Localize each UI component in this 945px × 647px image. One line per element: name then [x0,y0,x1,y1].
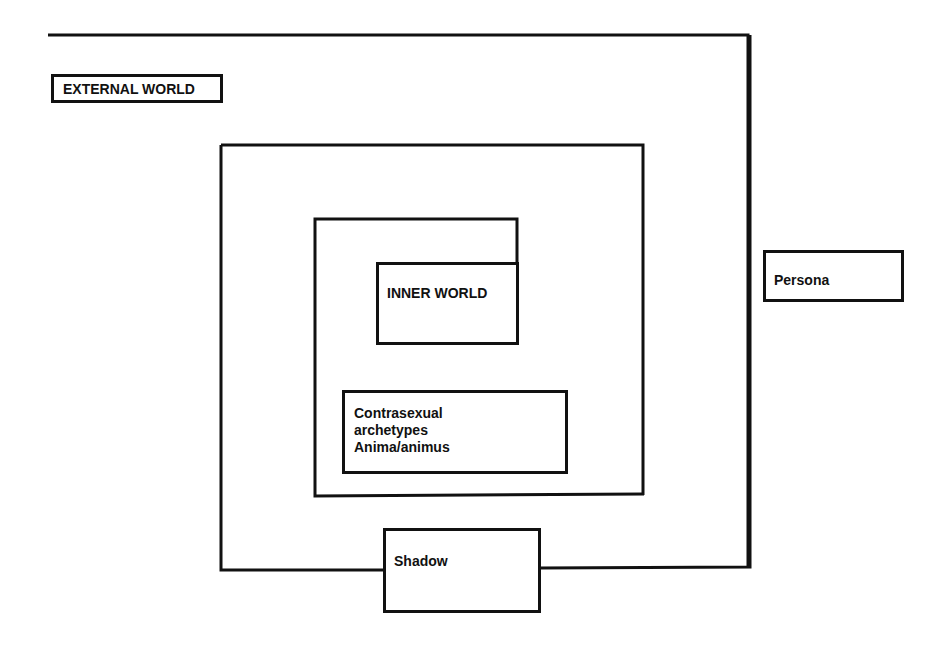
external-world-label: EXTERNAL WORLD [63,81,220,98]
shadow-box: Shadow [383,528,541,613]
inner-world-box: INNER WORLD [376,262,519,345]
shadow-label: Shadow [394,553,538,570]
middle-box-bottom-right-line [540,35,750,568]
contrasexual-archetypes-label: Contrasexual archetypes Anima/animus [354,405,565,456]
inner-world-label: INNER WORLD [387,285,516,302]
contrasexual-archetypes-box: Contrasexual archetypes Anima/animus [342,390,568,474]
persona-label: Persona [774,272,901,289]
external-world-box: EXTERNAL WORLD [51,74,223,103]
persona-box: Persona [763,250,904,302]
middle-box-lower-line [221,145,384,570]
